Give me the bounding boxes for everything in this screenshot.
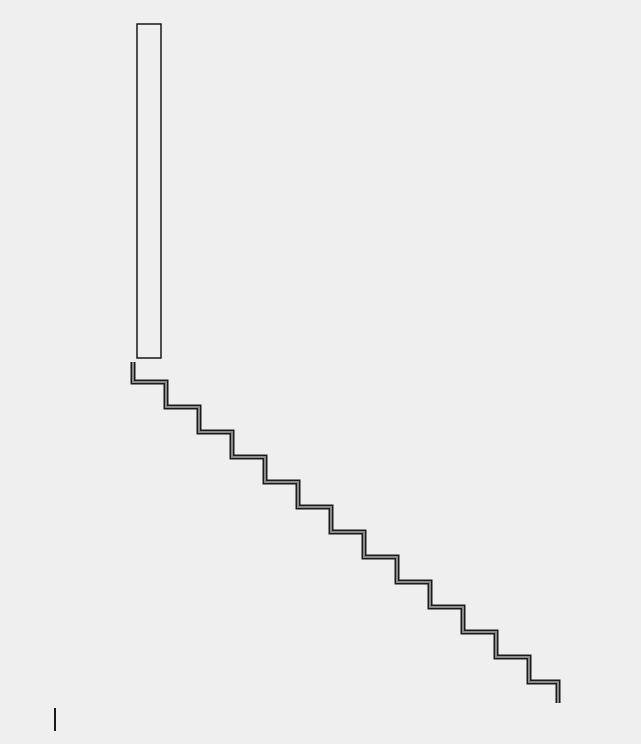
staircase xyxy=(133,362,558,703)
staircase-diagram xyxy=(0,0,641,744)
tall-rectangle xyxy=(137,24,161,358)
